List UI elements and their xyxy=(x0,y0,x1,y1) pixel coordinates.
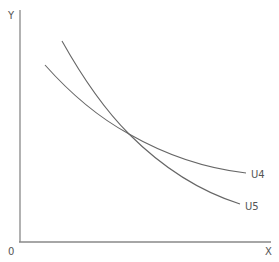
curve-u5 xyxy=(62,41,240,204)
x-axis-label: X xyxy=(265,246,272,257)
diagram-canvas: Y 0 X U4 U5 xyxy=(0,0,279,262)
curve-u4-label: U4 xyxy=(251,169,265,180)
indifference-curve-diagram: Y 0 X U4 U5 xyxy=(0,0,279,262)
origin-label: 0 xyxy=(8,246,14,257)
curve-u4 xyxy=(45,65,246,173)
curve-u5-label: U5 xyxy=(245,201,259,212)
y-axis-label: Y xyxy=(7,10,15,21)
